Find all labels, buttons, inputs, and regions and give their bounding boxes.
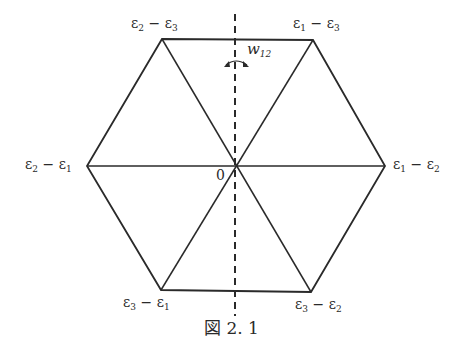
label-origin: 0 — [216, 168, 225, 182]
spoke-topright-bottomleft — [161, 40, 313, 290]
root-system-figure: ε2 − ε3 ε1 − ε3 ε2 − ε1 ε1 − ε2 ε3 − ε1 … — [0, 0, 463, 364]
figure-caption: 図 2. 1 — [0, 320, 463, 337]
label-e2-minus-e3: ε2 − ε3 — [131, 16, 178, 33]
label-w12: w12 — [247, 42, 271, 59]
label-e3-minus-e1: ε3 − ε1 — [123, 295, 170, 312]
label-e2-minus-e1: ε2 − ε1 — [25, 157, 72, 174]
hexagon-diagram — [0, 0, 463, 364]
label-e1-minus-e2: ε1 − ε2 — [393, 157, 440, 174]
label-e3-minus-e2: ε3 − ε2 — [295, 297, 342, 314]
arrowhead-left-icon — [224, 61, 230, 67]
arrowhead-right-icon — [243, 61, 249, 67]
label-e1-minus-e3: ε1 − ε3 — [293, 16, 340, 33]
